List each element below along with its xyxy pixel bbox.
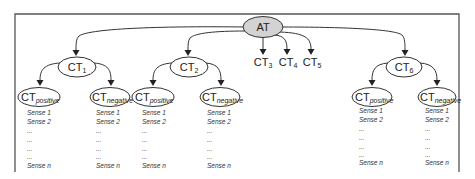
svg-text:Sense n: Sense n: [142, 162, 166, 169]
svg-text:Sense n: Sense n: [96, 162, 120, 169]
svg-text:...: ...: [96, 145, 102, 152]
svg-text:...: ...: [425, 151, 431, 158]
svg-text:...: ...: [207, 145, 213, 152]
sense-list-ct1-positive: Sense 1 Sense 2 ... ... ... ... Sense n: [27, 109, 51, 169]
polarity-ct6-negative: CTnegative: [418, 88, 461, 107]
svg-text:...: ...: [27, 127, 33, 134]
svg-text:...: ...: [425, 143, 431, 150]
svg-text:...: ...: [207, 136, 213, 143]
svg-text:Sense n: Sense n: [207, 162, 231, 169]
sense-list-ct6-positive: Sense 1 Sense 2 ... ... ... ... Sense n: [359, 107, 383, 166]
arrowhead-ct3: [260, 49, 267, 55]
polarity-ct2-positive: CTpositive: [132, 88, 174, 107]
svg-text:...: ...: [425, 134, 431, 141]
edge-at-ct2: [188, 31, 245, 50]
svg-text:Sense 2: Sense 2: [359, 116, 383, 123]
svg-text:Sense n: Sense n: [359, 159, 383, 166]
polarity-ct1-positive: CTpositive: [18, 88, 60, 107]
svg-text:Sense 2: Sense 2: [425, 116, 449, 123]
svg-text:Sense 2: Sense 2: [207, 118, 231, 125]
polarity-ct6-positive: CTpositive: [352, 88, 394, 107]
svg-text:Sense 1: Sense 1: [96, 109, 120, 116]
sense-list-ct2-negative: Sense 1 Sense 2 ... ... ... ... Sense n: [207, 109, 231, 169]
node-ct5: CT5: [303, 56, 322, 69]
node-at: AT: [243, 17, 283, 38]
node-ct6: CT6: [369, 57, 441, 86]
svg-text:Sense 2: Sense 2: [27, 118, 51, 125]
arrowhead-ct4: [284, 49, 291, 55]
svg-text:...: ...: [96, 127, 102, 134]
svg-text:...: ...: [359, 134, 365, 141]
svg-text:Sense n: Sense n: [425, 159, 449, 166]
taxonomy-diagram: AT CT1 CT2 CT3 CT4 CT5 CT6 CTpositive CT…: [0, 0, 475, 179]
svg-text:...: ...: [207, 127, 213, 134]
node-at-label: AT: [256, 21, 270, 33]
svg-text:Sense 2: Sense 2: [142, 118, 166, 125]
polarity-ct2-negative: CTnegative: [200, 88, 243, 107]
arrowhead-ct2: [185, 50, 192, 56]
svg-text:Sense 1: Sense 1: [425, 107, 449, 114]
svg-text:Sense 1: Sense 1: [359, 107, 383, 114]
svg-text:...: ...: [27, 136, 33, 143]
svg-text:...: ...: [207, 153, 213, 160]
svg-text:...: ...: [359, 143, 365, 150]
svg-text:...: ...: [142, 153, 148, 160]
edge-at-ct4: [275, 35, 287, 49]
svg-text:...: ...: [142, 127, 148, 134]
sense-list-ct2-positive: Sense 1 Sense 2 ... ... ... ... Sense n: [142, 109, 166, 169]
svg-text:Sense 1: Sense 1: [27, 109, 51, 116]
sense-list-ct1-negative: Sense 1 Sense 2 ... ... ... ... Sense n: [96, 109, 120, 169]
node-ct3: CT3: [254, 56, 273, 69]
edge-at-ct1: [76, 27, 244, 50]
edge-at-ct6: [283, 27, 405, 50]
svg-text:...: ...: [142, 145, 148, 152]
node-ct4: CT4: [279, 56, 298, 69]
edge-at-ct5: [280, 32, 311, 49]
arrowhead-ct5: [308, 49, 315, 55]
svg-text:...: ...: [425, 125, 431, 132]
svg-text:...: ...: [27, 153, 33, 160]
sense-list-ct6-negative: Sense 1 Sense 2 ... ... ... ... Sense n: [425, 107, 449, 166]
svg-text:...: ...: [359, 125, 365, 132]
svg-text:...: ...: [27, 145, 33, 152]
svg-text:...: ...: [96, 153, 102, 160]
svg-text:Sense 2: Sense 2: [96, 118, 120, 125]
svg-text:...: ...: [142, 136, 148, 143]
polarity-ct1-negative: CTnegative: [90, 88, 133, 107]
arrowhead-ct1: [73, 50, 80, 56]
node-ct1: CT1: [37, 57, 115, 86]
edges-root: [73, 27, 409, 56]
svg-text:Sense 1: Sense 1: [142, 109, 166, 116]
svg-text:Sense n: Sense n: [27, 162, 51, 169]
svg-text:Sense 1: Sense 1: [207, 109, 231, 116]
svg-text:...: ...: [359, 151, 365, 158]
node-ct2: CT2: [150, 57, 225, 86]
arrowhead-ct6: [402, 50, 409, 56]
svg-text:...: ...: [96, 136, 102, 143]
